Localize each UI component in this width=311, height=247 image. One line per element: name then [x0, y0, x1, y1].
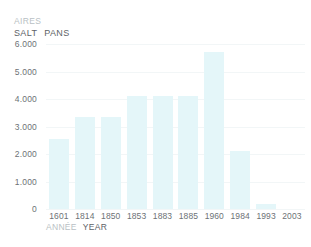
x-axis-tick-label: 1853: [124, 211, 150, 221]
bar-slot: [201, 44, 227, 209]
x-axis-tick-label: 2003: [279, 211, 305, 221]
bar-slot: [72, 44, 98, 209]
bar-slot: [175, 44, 201, 209]
x-axis-title: ANNÉEYEAR: [46, 222, 107, 232]
bar: [230, 151, 250, 209]
plot-area: [46, 44, 305, 209]
bar: [101, 117, 121, 209]
bar: [204, 52, 224, 209]
bar-slot: [46, 44, 72, 209]
bar: [256, 204, 276, 210]
salt-pans-bar-chart: AIRES SALTPANS 6.0005.0004.0003.0002.000…: [0, 0, 311, 247]
y-axis-tick-label: 4.000: [15, 94, 37, 104]
bar-slot: [124, 44, 150, 209]
x-axis-title-french: ANNÉE: [46, 222, 77, 232]
y-axis-tick-label: 2.000: [15, 149, 37, 159]
bars-layer: [46, 44, 305, 209]
gridline: [46, 209, 305, 210]
bar-slot: [98, 44, 124, 209]
x-axis-tick-label: 1885: [175, 211, 201, 221]
x-axis-title-english: YEAR: [83, 222, 107, 232]
bar-slot: [253, 44, 279, 209]
y-axis-tick-label: 5.000: [15, 67, 37, 77]
x-axis-tick-label: 1850: [98, 211, 124, 221]
bar-slot: [227, 44, 253, 209]
bar-slot: [279, 44, 305, 209]
x-axis-tick-label: 1601: [46, 211, 72, 221]
x-axis-tick-label: 1883: [150, 211, 176, 221]
bar-slot: [150, 44, 176, 209]
bar: [178, 96, 198, 209]
bar: [153, 96, 173, 209]
bar: [75, 117, 95, 209]
x-axis-tick-label: 1984: [227, 211, 253, 221]
y-axis-tick-label: 3.000: [15, 122, 37, 132]
bar: [127, 96, 147, 209]
x-axis-tick-label: 1993: [253, 211, 279, 221]
y-axis: 6.0005.0004.0003.0002.0001.0000: [0, 0, 44, 247]
y-axis-tick-label: 6.000: [15, 39, 37, 49]
x-axis: 1601181418501853188318851960198419932003: [46, 211, 305, 221]
bar: [49, 139, 69, 209]
chart-title-pans: PANS: [44, 28, 69, 38]
x-axis-tick-label: 1960: [201, 211, 227, 221]
x-axis-tick-label: 1814: [72, 211, 98, 221]
y-axis-tick-label: 0: [32, 204, 37, 214]
y-axis-tick-label: 1.000: [15, 177, 37, 187]
